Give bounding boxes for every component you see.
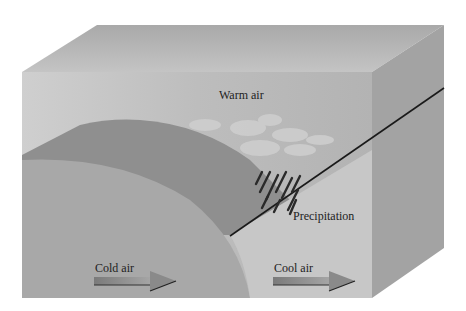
label-warm-air: Warm air [219, 88, 264, 102]
block-top-face [22, 25, 444, 72]
label-precipitation: Precipitation [293, 209, 354, 223]
block-right-face [372, 25, 444, 298]
label-cold-air: Cold air [95, 261, 134, 275]
label-cool-air: Cool air [274, 261, 313, 275]
warm-front-diagram: Warm air Precipitation Cold air Cool air [0, 0, 466, 311]
